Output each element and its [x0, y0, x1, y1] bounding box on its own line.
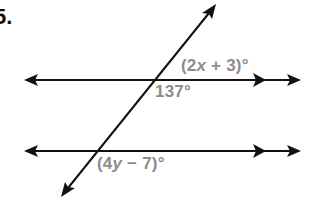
label-part: − 7)°: [122, 154, 165, 173]
label-part: (4: [97, 154, 113, 173]
angle-label-137: 137°: [155, 82, 191, 102]
parallel-lines-diagram: [0, 0, 322, 206]
variable-x: x: [197, 56, 207, 75]
variable-y: y: [113, 154, 123, 173]
transversal-top-arrow-icon: [202, 4, 216, 19]
label-part: + 3)°: [206, 56, 249, 75]
angle-label-2x-plus-3: (2x + 3)°: [181, 56, 249, 76]
angle-label-4y-minus-7: (4y − 7)°: [97, 154, 165, 174]
label-part: (2: [181, 56, 197, 75]
transversal-bottom-arrow-icon: [61, 182, 75, 197]
